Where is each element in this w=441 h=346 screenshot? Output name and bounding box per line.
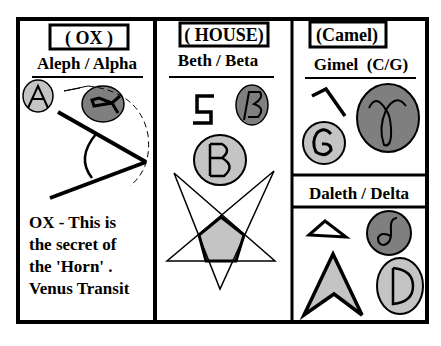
beth-glyph-icon bbox=[193, 96, 214, 123]
alphabet-diagram: ( OX ) Aleph / Alpha OX - This is the se… bbox=[0, 0, 441, 346]
glyph-greek-alpha bbox=[82, 86, 124, 122]
circle-dark-delta bbox=[367, 211, 411, 255]
title-beth: Beth / Beta bbox=[178, 51, 259, 70]
gimel-glyph-icon bbox=[312, 89, 345, 116]
panel-aleph: ( OX ) Aleph / Alpha OX - This is the se… bbox=[23, 25, 149, 298]
title-aleph: Aleph / Alpha bbox=[37, 54, 138, 73]
title-gimel: Gimel (C/G) bbox=[314, 55, 408, 74]
meaning-ox: ( OX ) bbox=[65, 28, 113, 49]
panel-daleth: Daleth / Delta bbox=[292, 175, 427, 315]
glyph-greek-gamma bbox=[357, 84, 419, 152]
glyph-latin-a bbox=[23, 80, 53, 112]
circle-light-d bbox=[377, 258, 423, 314]
panel-beth: ( HOUSE) Beth / Beta bbox=[167, 23, 275, 289]
glyph-latin-d bbox=[377, 258, 423, 314]
arrowhead-icon bbox=[304, 254, 362, 315]
horn-line-lower bbox=[50, 162, 146, 198]
caption-line-4: Venus Transit bbox=[29, 279, 130, 298]
caption-line-3: the 'Horn' . bbox=[29, 257, 113, 276]
delta-triangle-icon bbox=[309, 221, 346, 237]
glyph-latin-g bbox=[303, 122, 345, 164]
title-daleth: Daleth / Delta bbox=[309, 184, 410, 203]
meaning-house: ( HOUSE) bbox=[184, 25, 264, 46]
circle-light-b bbox=[194, 135, 246, 185]
meaning-camel: (Camel) bbox=[316, 25, 378, 46]
glyph-latin-b bbox=[194, 135, 246, 185]
caption-line-2: the secret of bbox=[29, 235, 117, 254]
pentagram bbox=[167, 171, 275, 289]
horn-arc bbox=[85, 134, 96, 178]
glyph-greek-delta bbox=[367, 211, 411, 255]
arrow-icon bbox=[64, 86, 88, 91]
caption-line-1: OX - This is bbox=[29, 213, 116, 232]
panel-gimel: (Camel) Gimel (C/G) bbox=[303, 22, 419, 164]
glyph-greek-beta bbox=[236, 85, 268, 125]
circle-dark-gamma bbox=[357, 84, 419, 152]
